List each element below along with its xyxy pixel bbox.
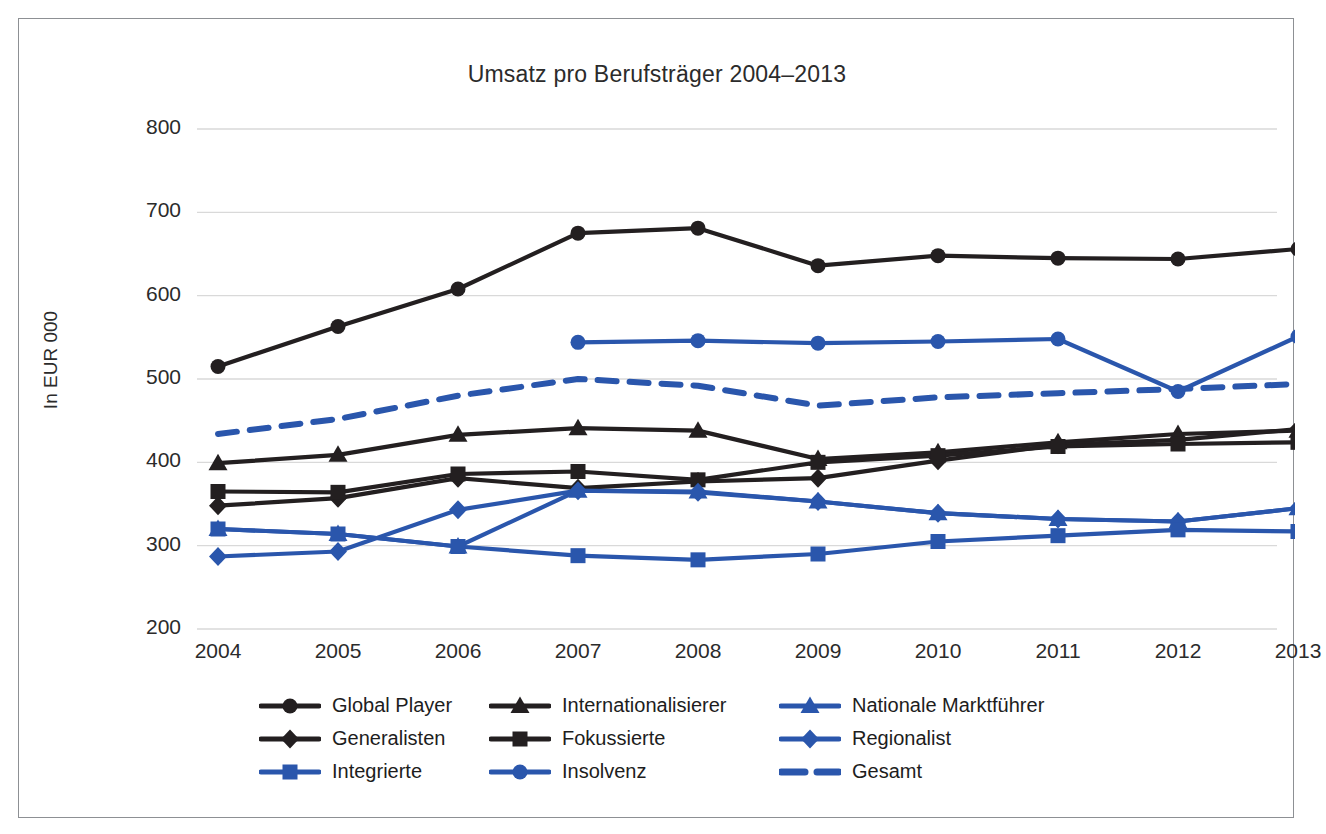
legend-item-insolvenz[interactable]: Insolvenz bbox=[489, 760, 779, 783]
x-axis-tick-label: 2010 bbox=[883, 639, 993, 663]
data-point-marker bbox=[1171, 522, 1186, 537]
x-axis-tick-label: 2008 bbox=[643, 639, 753, 663]
data-point-marker bbox=[281, 729, 299, 748]
legend-item-label: Insolvenz bbox=[562, 760, 647, 783]
dash-marker-icon bbox=[779, 762, 841, 782]
legend-item-nationale-marktf-hrer[interactable]: Nationale Marktführer bbox=[779, 694, 1109, 717]
data-point-marker bbox=[571, 335, 586, 350]
x-axis-tick-label: 2005 bbox=[283, 639, 393, 663]
data-point-marker bbox=[1051, 528, 1066, 543]
legend-item-label: Generalisten bbox=[332, 727, 445, 750]
data-point-marker bbox=[571, 464, 586, 479]
chart-frame: Umsatz pro Berufsträger 2004–2013 In EUR… bbox=[18, 18, 1294, 818]
y-axis-tick-label: 500 bbox=[97, 365, 181, 389]
legend-item-integrierte[interactable]: Integrierte bbox=[259, 760, 489, 783]
data-point-marker bbox=[211, 484, 226, 499]
legend-row: GeneralistenFokussierteRegionalist bbox=[259, 722, 1259, 755]
data-point-marker bbox=[331, 527, 346, 542]
data-point-marker bbox=[811, 547, 826, 562]
square-marker-icon bbox=[489, 729, 551, 749]
series-3 bbox=[209, 420, 1295, 516]
data-point-marker bbox=[331, 319, 346, 334]
x-axis-tick-label: 2011 bbox=[1003, 639, 1113, 663]
data-point-marker bbox=[571, 226, 586, 241]
series-0 bbox=[211, 221, 1296, 374]
x-axis-tick-label: 2012 bbox=[1123, 639, 1233, 663]
data-point-marker bbox=[513, 764, 528, 779]
data-point-marker bbox=[1051, 251, 1066, 266]
data-point-marker bbox=[1291, 524, 1296, 539]
x-axis-tick-label: 2004 bbox=[163, 639, 273, 663]
legend-row: Global PlayerInternationalisiererNationa… bbox=[259, 689, 1259, 722]
data-point-marker bbox=[801, 729, 819, 748]
data-point-marker bbox=[811, 258, 826, 273]
diamond-marker-icon bbox=[259, 729, 321, 749]
data-point-marker bbox=[283, 698, 298, 713]
data-point-marker bbox=[811, 336, 826, 351]
x-axis-tick-label: 2009 bbox=[763, 639, 873, 663]
data-point-marker bbox=[571, 548, 586, 563]
data-point-marker bbox=[451, 467, 466, 482]
series-6 bbox=[211, 522, 1296, 568]
square-marker-icon bbox=[259, 762, 321, 782]
legend-item-label: Fokussierte bbox=[562, 727, 665, 750]
legend-item-label: Global Player bbox=[332, 694, 452, 717]
data-point-marker bbox=[691, 221, 706, 236]
y-axis-tick-label: 600 bbox=[97, 282, 181, 306]
data-point-marker bbox=[211, 359, 226, 374]
legend-item-label: Integrierte bbox=[332, 760, 422, 783]
data-point-marker bbox=[451, 282, 466, 297]
data-point-marker bbox=[1171, 437, 1186, 452]
data-point-marker bbox=[931, 534, 946, 549]
legend-item-global-player[interactable]: Global Player bbox=[259, 694, 489, 717]
series-line bbox=[218, 429, 1295, 506]
diamond-marker-icon bbox=[779, 729, 841, 749]
circle-marker-icon bbox=[489, 762, 551, 782]
legend-item-label: Gesamt bbox=[852, 760, 922, 783]
data-point-marker bbox=[931, 248, 946, 263]
legend-item-generalisten[interactable]: Generalisten bbox=[259, 727, 489, 750]
y-axis-tick-label: 700 bbox=[97, 198, 181, 222]
data-point-marker bbox=[209, 547, 227, 566]
series-line bbox=[218, 529, 1295, 560]
legend-item-regionalist[interactable]: Regionalist bbox=[779, 727, 1109, 750]
data-point-marker bbox=[931, 334, 946, 349]
series-8 bbox=[218, 379, 1295, 434]
x-axis-tick-label: 2006 bbox=[403, 639, 513, 663]
triangle-marker-icon bbox=[779, 696, 841, 716]
data-point-marker bbox=[931, 448, 946, 463]
data-point-marker bbox=[513, 731, 528, 746]
legend-row: IntegrierteInsolvenzGesamt bbox=[259, 755, 1259, 788]
circle-marker-icon bbox=[259, 696, 321, 716]
legend-item-fokussierte[interactable]: Fokussierte bbox=[489, 727, 779, 750]
data-point-marker bbox=[811, 455, 826, 470]
data-point-marker bbox=[449, 500, 467, 519]
data-point-marker bbox=[691, 552, 706, 567]
legend-item-label: Internationalisierer bbox=[562, 694, 727, 717]
data-point-marker bbox=[209, 496, 227, 515]
y-axis-tick-label: 300 bbox=[97, 532, 181, 556]
y-axis-tick-label: 400 bbox=[97, 448, 181, 472]
series-line bbox=[218, 228, 1295, 366]
data-point-marker bbox=[211, 522, 226, 537]
data-point-marker bbox=[331, 485, 346, 500]
y-axis-tick-label: 200 bbox=[97, 615, 181, 639]
data-point-marker bbox=[451, 539, 466, 554]
chart-legend: Global PlayerInternationalisiererNationa… bbox=[259, 689, 1259, 788]
series-line bbox=[218, 379, 1295, 434]
legend-item-internationalisierer[interactable]: Internationalisierer bbox=[489, 694, 779, 717]
legend-item-gesamt[interactable]: Gesamt bbox=[779, 760, 1109, 783]
data-point-marker bbox=[1171, 252, 1186, 267]
data-point-marker bbox=[809, 469, 827, 488]
data-point-marker bbox=[1051, 332, 1066, 347]
triangle-marker-icon bbox=[489, 696, 551, 716]
data-point-marker bbox=[1291, 242, 1296, 257]
gridlines bbox=[197, 129, 1277, 629]
data-point-marker bbox=[329, 542, 347, 561]
x-axis-tick-label: 2007 bbox=[523, 639, 633, 663]
data-point-marker bbox=[1051, 439, 1066, 454]
data-point-marker bbox=[283, 764, 298, 779]
y-axis-tick-label: 800 bbox=[97, 115, 181, 139]
x-axis-tick-label: 2013 bbox=[1243, 639, 1326, 663]
legend-item-label: Nationale Marktführer bbox=[852, 694, 1044, 717]
